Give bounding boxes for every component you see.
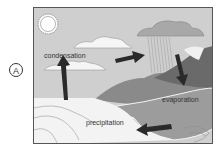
answer-option-marker[interactable]: A (9, 63, 23, 77)
sun-icon (38, 14, 58, 34)
condensation-label: condensation (44, 52, 86, 59)
water-cycle-diagram: condensation evaporation precipitation (33, 7, 213, 144)
precipitation-label: precipitation (86, 119, 124, 126)
evaporation-label: evaporation (162, 96, 199, 103)
